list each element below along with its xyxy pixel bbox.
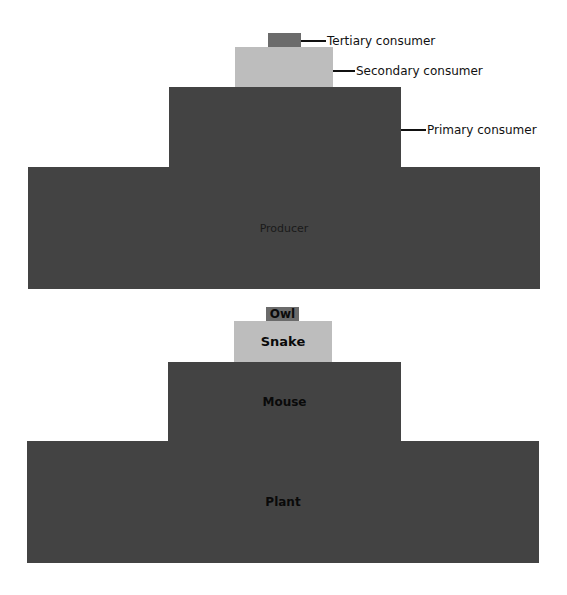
snake-block: Snake	[234, 321, 332, 362]
mouse-block: Mouse	[168, 362, 401, 441]
primary-leader-line	[401, 129, 426, 131]
mouse-text: Mouse	[262, 395, 306, 409]
secondary-consumer-label: Secondary consumer	[356, 64, 483, 78]
owl-block: Owl	[266, 307, 299, 321]
tertiary-consumer-label: Tertiary consumer	[327, 34, 435, 48]
secondary-consumer-block	[235, 47, 333, 87]
snake-text: Snake	[261, 334, 306, 349]
owl-text: Owl	[270, 307, 295, 321]
plant-block: Plant	[27, 441, 539, 563]
primary-consumer-block	[169, 87, 401, 167]
producer-text: Producer	[260, 222, 309, 235]
producer-block: Producer	[28, 167, 540, 289]
secondary-leader-line	[333, 70, 355, 72]
plant-text: Plant	[265, 495, 300, 509]
tertiary-consumer-block	[268, 33, 301, 47]
tertiary-leader-line	[301, 40, 326, 42]
primary-consumer-label: Primary consumer	[427, 123, 537, 137]
